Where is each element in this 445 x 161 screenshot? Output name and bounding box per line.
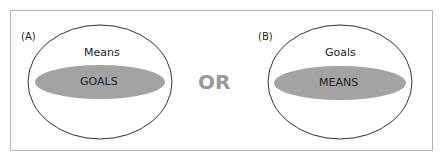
panel-a-label: (A) — [21, 31, 36, 42]
panel-a-inner-label: GOALS — [80, 75, 118, 88]
or-connector: OR — [198, 70, 230, 94]
panel-b-inner-label: MEANS — [319, 76, 358, 89]
panel-b-label: (B) — [258, 31, 273, 42]
panel-b-outer-label: Goals — [325, 46, 356, 59]
panel-a-outer-label: Means — [84, 46, 120, 59]
